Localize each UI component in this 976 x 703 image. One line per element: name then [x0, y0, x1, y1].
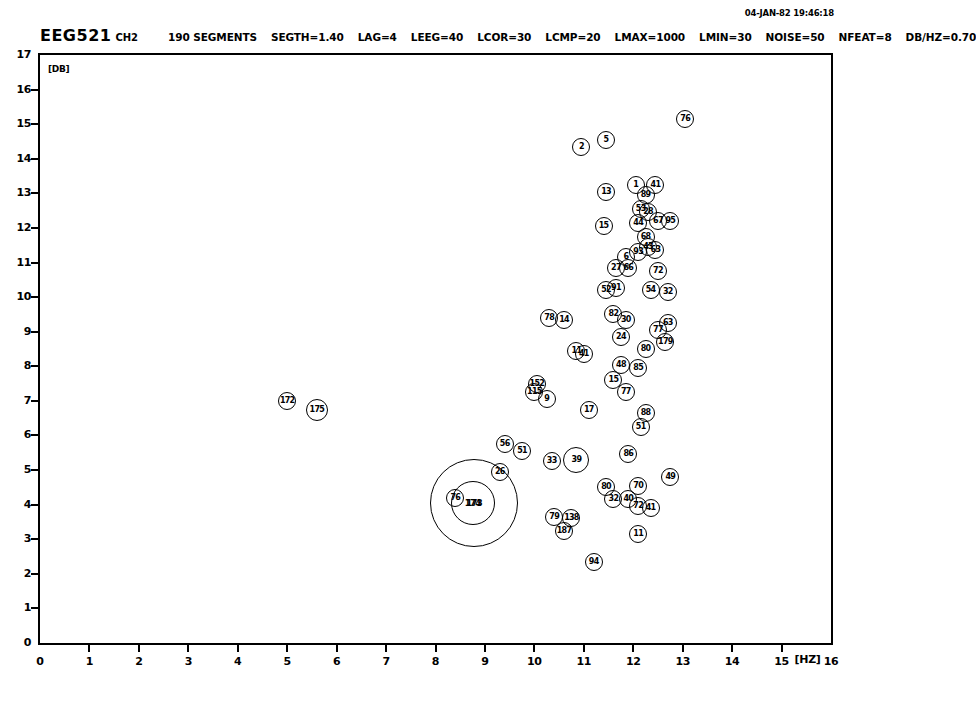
x-tick-label: 4	[228, 655, 248, 668]
y-tick-mark	[31, 538, 40, 540]
x-tick-mark	[336, 643, 338, 652]
x-axis-unit-label: [HZ]	[795, 653, 821, 666]
y-tick-label: 17	[9, 48, 31, 61]
x-tick-label: 11	[574, 655, 594, 668]
y-tick-label: 0	[9, 636, 31, 649]
data-point: 32	[659, 283, 677, 301]
x-tick-mark	[187, 643, 189, 652]
param-dbhz: DB/HZ=0.70	[906, 31, 976, 43]
x-tick-mark	[682, 643, 684, 652]
x-tick-mark	[138, 643, 140, 652]
y-tick-label: 13	[9, 186, 31, 199]
data-point-label: 80	[641, 345, 651, 353]
data-point: 24	[612, 328, 630, 346]
y-tick-label: 8	[9, 359, 31, 372]
x-tick-label: 15	[772, 655, 792, 668]
y-tick-label: 6	[9, 428, 31, 441]
data-point: 54	[642, 281, 660, 299]
y-tick-mark	[31, 123, 40, 125]
data-point-label: 13	[601, 188, 611, 196]
x-tick-mark	[237, 643, 239, 652]
y-tick-mark	[31, 365, 40, 367]
data-point-label: 51	[517, 447, 527, 455]
data-point-label: 88	[641, 409, 651, 417]
x-tick-label: 7	[376, 655, 396, 668]
x-tick-label: 13	[673, 655, 693, 668]
x-tick-mark	[286, 643, 288, 652]
data-point: 39	[563, 447, 589, 473]
data-point: 9	[538, 390, 556, 408]
x-tick-mark	[88, 643, 90, 652]
data-point: 94	[585, 553, 603, 571]
data-point-label: 76	[680, 115, 690, 123]
y-tick-mark	[31, 89, 40, 91]
data-point-label: 41	[579, 350, 589, 358]
y-tick-mark	[31, 607, 40, 609]
data-point: 51	[513, 442, 531, 460]
data-point-label: 172	[280, 397, 295, 405]
data-point-label: 33	[547, 457, 557, 465]
data-point-label: 17	[584, 406, 594, 414]
data-point: 41	[642, 499, 660, 517]
y-tick-label: 12	[9, 221, 31, 234]
data-point-label: 44	[633, 219, 643, 227]
x-tick-label: 14	[722, 655, 742, 668]
y-tick-mark	[31, 469, 40, 471]
x-tick-mark	[781, 643, 783, 652]
data-point-label: 89	[641, 191, 651, 199]
y-tick-mark	[31, 504, 40, 506]
x-tick-mark	[583, 643, 585, 652]
y-tick-mark	[31, 158, 40, 160]
y-tick-label: 11	[9, 256, 31, 269]
x-tick-label: 16	[821, 655, 841, 668]
data-point-label: 179	[658, 338, 673, 346]
data-point: 33	[543, 452, 561, 470]
data-point: 63	[659, 314, 677, 332]
data-point: 187	[555, 522, 573, 540]
y-tick-label: 16	[9, 83, 31, 96]
x-tick-label: 1	[79, 655, 99, 668]
x-tick-mark	[632, 643, 634, 652]
x-tick-mark	[731, 643, 733, 652]
data-point-label: 72	[653, 267, 663, 275]
data-point-label: 14	[559, 316, 569, 324]
x-tick-label: 9	[475, 655, 495, 668]
data-point: 2	[572, 138, 590, 156]
y-tick-mark	[31, 262, 40, 264]
data-point-label: 9	[544, 395, 549, 403]
y-tick-label: 4	[9, 498, 31, 511]
data-point: 15	[595, 217, 613, 235]
y-tick-label: 3	[9, 532, 31, 545]
data-point: 80	[637, 340, 655, 358]
x-tick-label: 10	[524, 655, 544, 668]
y-tick-label: 1	[9, 601, 31, 614]
x-tick-mark	[484, 643, 486, 652]
data-point: 173	[430, 459, 518, 547]
data-point: 30	[617, 311, 635, 329]
plot-frame	[38, 53, 833, 645]
y-tick-label: 15	[9, 117, 31, 130]
data-point-label: 49	[665, 473, 675, 481]
data-point-label: 63	[663, 319, 673, 327]
data-point-label: 11	[633, 530, 643, 538]
x-tick-label: 3	[178, 655, 198, 668]
y-tick-mark	[31, 434, 40, 436]
data-point-label: 175	[310, 406, 325, 414]
y-tick-mark	[31, 573, 40, 575]
data-point-label: 78	[544, 314, 554, 322]
y-tick-label: 7	[9, 394, 31, 407]
data-point-label: 32	[609, 495, 619, 503]
data-point-label: 5	[604, 136, 609, 144]
y-tick-mark	[31, 192, 40, 194]
x-tick-mark	[385, 643, 387, 652]
data-point-label: 30	[621, 316, 631, 324]
data-point-label: 173	[466, 499, 482, 508]
data-point-label: 187	[557, 527, 572, 535]
data-point: 5	[597, 131, 615, 149]
x-tick-label: 12	[623, 655, 643, 668]
y-tick-label: 9	[9, 325, 31, 338]
x-tick-mark	[435, 643, 437, 652]
data-point-label: 85	[633, 364, 643, 372]
y-axis-unit-label: [DB]	[48, 64, 69, 74]
data-point-label: 2	[579, 143, 584, 151]
